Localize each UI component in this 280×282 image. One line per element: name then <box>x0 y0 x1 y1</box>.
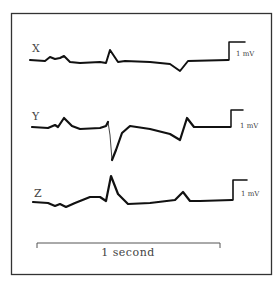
lead-y-trace-downstroke <box>108 122 112 160</box>
ecg-figure: X 1 mV Y 1 mV Z 1 mV 1 second <box>0 0 280 282</box>
lead-z-trace <box>33 176 232 207</box>
figure-border <box>12 14 272 275</box>
lead-y-label: Y <box>31 110 40 123</box>
lead-x-trace <box>30 50 228 71</box>
time-scale-label: 1 second <box>101 246 155 259</box>
lead-z-calibration-label: 1 mV <box>241 190 260 198</box>
lead-z-label: Z <box>34 187 42 200</box>
lead-y-calibration-label: 1 mV <box>240 122 259 130</box>
lead-x-calibration-label: 1 mV <box>236 50 255 58</box>
lead-x-label: X <box>32 42 40 55</box>
lead-y-trace <box>32 118 108 129</box>
lead-y-trace-recovery <box>112 118 230 160</box>
